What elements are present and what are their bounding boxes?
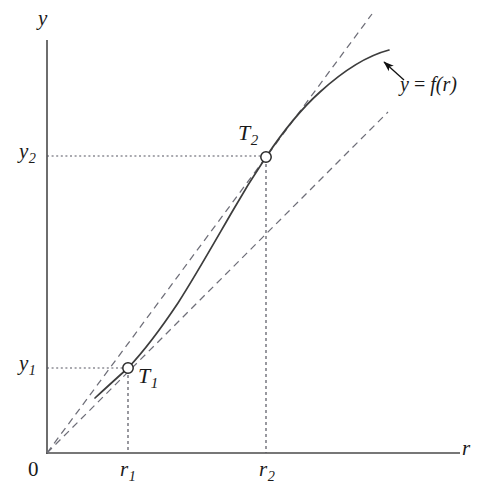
x-tick-r1-subscript: 1 [128,468,136,484]
point-t1-base: T [138,363,150,388]
origin-label: 0 [28,459,39,480]
y-tick-y2-subscript: 2 [28,150,36,166]
curve-label-y: y [400,73,409,95]
curve-y-equals-f-of-r [95,50,389,398]
marker-t1 [123,363,133,373]
curve-label-arg: (r) [436,73,457,95]
x-tick-r2-subscript: 2 [267,468,275,484]
x-axis-label: r [462,438,470,459]
y-tick-y1-subscript: 1 [28,362,36,378]
x-tick-label-r1: r1 [120,459,136,483]
x-tick-label-r2: r2 [259,459,275,483]
y-axis-label: y [38,8,47,29]
x-tick-r2-base: r [259,457,267,481]
y-tick-y1-base: y [19,351,28,375]
y-tick-y2-base: y [19,139,28,163]
curve-function-label: y = f(r) [400,74,457,94]
y-tick-label-y2: y2 [19,141,36,165]
point-label-t1: T1 [138,365,158,391]
curve-label-operator: = [409,73,430,95]
y-tick-label-y1: y1 [19,353,36,377]
figure-canvas: y r 0 y2 y1 r1 r2 T1 T2 y = f(r) [0,0,485,497]
point-label-t2: T2 [238,122,258,148]
point-t1-subscript: 1 [150,375,158,391]
tangent-ray-through-t2 [47,14,372,453]
point-t2-subscript: 2 [250,132,258,148]
x-tick-r1-base: r [120,457,128,481]
point-t2-base: T [238,120,250,145]
marker-t2 [261,152,271,162]
tangent-ray-through-t1 [47,112,388,453]
